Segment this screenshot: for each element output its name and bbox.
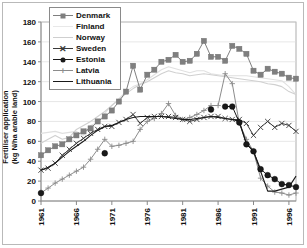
data-point xyxy=(138,87,143,92)
data-point xyxy=(279,181,285,187)
y-tick-label: 180 xyxy=(23,18,37,27)
legend-swatch-finland xyxy=(52,21,74,32)
data-point xyxy=(272,176,278,182)
data-point xyxy=(265,66,270,71)
legend-label-estonia: Estonia xyxy=(74,55,105,64)
legend-item-finland[interactable]: Finland xyxy=(52,21,117,32)
data-point xyxy=(229,104,235,110)
data-point xyxy=(53,144,58,149)
x-tick-label: 1986 xyxy=(214,207,223,225)
data-point xyxy=(109,108,114,113)
legend-label-norway: Norway xyxy=(74,33,105,42)
data-point xyxy=(272,69,277,74)
legend-swatch-denmark xyxy=(52,10,74,21)
x-tick-label: 1961 xyxy=(37,207,46,225)
data-point xyxy=(251,68,256,73)
data-point xyxy=(236,120,242,126)
data-point xyxy=(81,129,86,134)
data-point xyxy=(258,166,264,172)
data-point xyxy=(38,153,43,158)
legend-item-latvia[interactable]: +Latvia xyxy=(52,65,117,76)
legend-item-denmark[interactable]: Denmark xyxy=(52,10,117,21)
data-point xyxy=(60,142,65,147)
x-tick-label: 1981 xyxy=(179,207,188,225)
data-point xyxy=(102,114,107,119)
data-point xyxy=(293,184,299,190)
data-point xyxy=(159,59,164,64)
legend-label-latvia: Latvia xyxy=(74,66,99,75)
legend-swatch-latvia: + xyxy=(52,65,74,76)
data-point xyxy=(173,52,178,57)
data-point xyxy=(244,51,249,56)
x-tick-label: 1991 xyxy=(250,207,259,225)
x-tick-label: 1971 xyxy=(108,207,117,225)
y-tick-label: 20 xyxy=(27,177,36,186)
data-point xyxy=(102,150,108,156)
data-point xyxy=(123,89,128,94)
legend-label-sweden: Sweden xyxy=(74,44,106,53)
data-point xyxy=(74,133,79,138)
data-point xyxy=(88,126,93,131)
legend-item-norway[interactable]: Norway xyxy=(52,32,117,43)
y-tick-label: 100 xyxy=(23,98,37,107)
data-point xyxy=(237,46,242,51)
chart-legend: DenmarkFinlandNorway✕SwedenEstonia+Latvi… xyxy=(49,7,121,90)
data-point xyxy=(251,148,257,154)
legend-swatch-lithuania xyxy=(52,76,74,87)
data-point xyxy=(244,141,250,147)
legend-swatch-estonia xyxy=(52,54,74,65)
data-point xyxy=(208,107,214,113)
y-tick-label: 40 xyxy=(27,157,36,166)
chart-plot: 0204060801001201401601801961196619711976… xyxy=(0,0,307,248)
data-point xyxy=(45,148,50,153)
data-point xyxy=(293,76,298,81)
legend-label-denmark: Denmark xyxy=(74,11,110,20)
legend-item-estonia[interactable]: Estonia xyxy=(52,54,117,65)
legend-label-finland: Finland xyxy=(74,22,104,31)
data-point xyxy=(38,190,44,196)
data-point xyxy=(116,99,121,104)
x-tick-label: 1996 xyxy=(285,207,294,225)
legend-item-sweden[interactable]: ✕Sweden xyxy=(52,43,117,54)
chart-figure: Fertiliser application (kg N/ha arable l… xyxy=(0,0,307,248)
x-tick-label: 1976 xyxy=(143,207,152,225)
data-point xyxy=(215,54,220,59)
data-point xyxy=(145,72,150,77)
data-point xyxy=(95,119,100,124)
data-point xyxy=(230,43,235,48)
y-tick-label: 80 xyxy=(27,117,36,126)
data-point xyxy=(152,67,157,72)
y-tick-label: 160 xyxy=(23,38,37,47)
data-point xyxy=(222,104,228,110)
data-point xyxy=(286,182,292,188)
legend-label-lithuania: Lithuania xyxy=(74,77,112,86)
legend-swatch-sweden: ✕ xyxy=(52,43,74,54)
x-tick-label: 1966 xyxy=(72,207,81,225)
data-point xyxy=(194,51,199,56)
data-point xyxy=(130,63,135,68)
data-point xyxy=(258,72,263,77)
data-point xyxy=(180,59,185,64)
data-point xyxy=(208,54,213,59)
data-point xyxy=(166,57,171,62)
data-point xyxy=(223,58,228,63)
data-point xyxy=(286,75,291,80)
data-point xyxy=(265,172,271,178)
legend-item-lithuania[interactable]: Lithuania xyxy=(52,76,117,87)
data-point xyxy=(201,38,206,43)
data-point xyxy=(279,71,284,76)
y-tick-label: 140 xyxy=(23,58,37,67)
y-tick-label: 0 xyxy=(32,197,37,206)
legend-swatch-norway xyxy=(52,32,74,43)
data-point xyxy=(67,137,72,142)
y-tick-label: 60 xyxy=(27,137,36,146)
data-point xyxy=(187,58,192,63)
y-tick-label: 120 xyxy=(23,78,37,87)
